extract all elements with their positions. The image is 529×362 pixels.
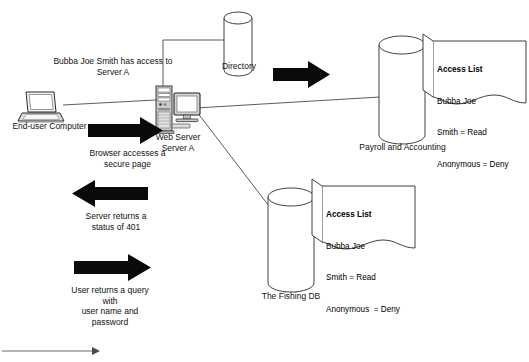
payroll-label: Payroll and Accounting: [355, 142, 450, 153]
end-user-computer-label: End-user Computer: [2, 121, 97, 132]
query-arrow-line2: with: [102, 296, 117, 306]
fishing-access-list-entry-1: Smith = Read: [326, 273, 400, 284]
link-laptop-to-server: [63, 100, 156, 105]
fishing-access-list-heading: Access List: [326, 210, 400, 221]
query-arrow-line1: User returns a query: [71, 285, 148, 295]
browser-arrow-text: Browser accesses asecure page: [75, 148, 180, 169]
status-401-arrow: [72, 180, 148, 207]
browser-arrow-line2: secure page: [104, 159, 151, 169]
payroll-access-list-entry-2: Anonymous = Deny: [437, 160, 509, 171]
credentials-arrow: [74, 254, 151, 281]
status-arrow-line2: status of 401: [92, 222, 141, 232]
access-note-line1: Bubba Joe Smith has access to: [53, 56, 172, 66]
link-server-to-payroll: [196, 97, 380, 108]
access-note-text: Bubba Joe Smith has access toServer A: [28, 56, 198, 77]
timeline-arrow: [2, 347, 100, 355]
payroll-access-list-text: Access List Bubba Joe Smith = Read Anony…: [437, 44, 509, 181]
monitor-icon: [172, 93, 200, 128]
payroll-access-list-heading: Access List: [437, 65, 509, 76]
fishing-access-list-text: Access List Bubba Joe Smith = Read Anony…: [326, 189, 400, 326]
fishing-access-list-entry-0: Bubba Joe: [326, 242, 400, 253]
status-arrow-line1: Server returns a: [86, 211, 147, 221]
directory-lookup-arrow: [273, 61, 330, 88]
fishing-access-list-entry-2: Anonymous = Deny: [326, 305, 400, 316]
fishing-db-cylinder-icon: [268, 188, 314, 292]
directory-label: Directory: [214, 61, 264, 72]
fishing-db-label: The Fishing DB: [250, 291, 332, 302]
server-tower-icon: [154, 86, 174, 133]
payroll-access-list-entry-1: Smith = Read: [437, 128, 509, 139]
laptop-icon: [18, 92, 64, 123]
status-arrow-text: Server returns astatus of 401: [66, 211, 166, 232]
query-arrow-line3: user name and: [82, 306, 139, 316]
browser-arrow-line1: Browser accesses a: [89, 148, 165, 158]
link-server-to-fishing-db: [197, 112, 272, 210]
payroll-cylinder-icon: [379, 36, 425, 144]
web-server-label-line1: Web Server: [156, 132, 201, 142]
access-note-line2: Server A: [97, 67, 130, 77]
payroll-access-list-entry-0: Bubba Joe: [437, 97, 509, 108]
credentials-arrow-text: User returns a querywithuser name andpas…: [52, 285, 168, 327]
query-arrow-line4: password: [92, 317, 128, 327]
